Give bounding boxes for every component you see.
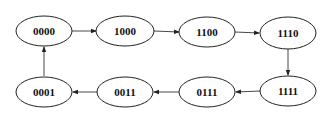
state-node-0001: 0001 [16,77,72,107]
state-node-0000: 0000 [16,16,72,46]
state-label: 0111 [197,86,218,98]
state-label: 0001 [33,86,55,98]
state-node-1111: 1111 [260,76,316,106]
state-label: 1000 [114,25,137,37]
state-node-0111: 0111 [179,77,235,107]
state-label: 0011 [114,86,135,98]
state-node-0011: 0011 [97,77,153,107]
edge-1100-1110 [235,32,259,33]
state-diagram: 0000 1000 1100 1110 1111 0111 0011 0001 [0,0,329,117]
state-label: 1100 [196,26,218,38]
state-node-1110: 1110 [260,17,316,49]
edge-1111-0111 [236,91,260,92]
state-node-1000: 1000 [96,16,154,46]
state-label: 1111 [278,85,298,97]
state-label: 1110 [278,27,299,39]
state-label: 0000 [33,25,56,37]
edge-1000-1100 [154,31,179,32]
state-node-1100: 1100 [179,17,235,47]
